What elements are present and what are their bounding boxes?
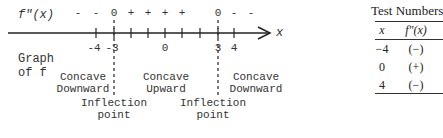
sign-value: +: [128, 7, 135, 19]
table-header-fx: f"(x): [405, 23, 427, 38]
region-line2: Upward: [143, 83, 189, 95]
table-cell: (−): [409, 78, 424, 93]
graph-label-line2: of f: [18, 66, 47, 80]
table-rule-bottom: [375, 93, 443, 94]
tick-label: 3: [215, 42, 222, 54]
region-line2: Downward: [230, 83, 283, 95]
table-cell: 4: [379, 78, 385, 93]
sign-value: -: [93, 7, 100, 19]
region-concavity: Concave Downward: [230, 71, 283, 95]
tick-label: -3: [105, 42, 118, 54]
sign-value: 0: [111, 7, 118, 19]
region-line1: Concave: [230, 71, 283, 83]
region-concavity: Concave Downward: [57, 71, 110, 95]
region-line1: Concave: [57, 71, 110, 83]
sign-value: +: [145, 7, 152, 19]
sign-value: +: [179, 7, 186, 19]
sign-value: -: [231, 7, 238, 19]
table-cell: 0: [379, 60, 385, 75]
table-rule-top: [375, 21, 443, 22]
region-line1: Concave: [143, 71, 189, 83]
tick-label: 4: [231, 42, 238, 54]
graph-label-line1: Graph: [18, 52, 54, 66]
tick-label: 0: [162, 42, 169, 54]
sign-row-label: f"(x): [18, 8, 54, 22]
table-cell: (+): [409, 60, 424, 75]
sign-value: -: [248, 7, 255, 19]
table-cell: (−): [409, 42, 424, 57]
table-rule-header: [375, 39, 443, 40]
axis-label-x: x: [276, 26, 283, 40]
sign-value: +: [162, 7, 169, 19]
region-concavity: Concave Upward: [143, 71, 189, 95]
table-cell: −4: [376, 42, 389, 57]
sign-value: 0: [215, 7, 222, 19]
sign-value: -: [75, 7, 82, 19]
table-title: Test Numbers: [371, 3, 443, 19]
region-line2: Downward: [57, 83, 110, 95]
tick-label: -4: [87, 42, 100, 54]
inflection-point-label: Inflection point: [81, 97, 147, 121]
inflection-point-label: Inflection point: [180, 97, 246, 121]
table-header-x: x: [379, 23, 384, 38]
